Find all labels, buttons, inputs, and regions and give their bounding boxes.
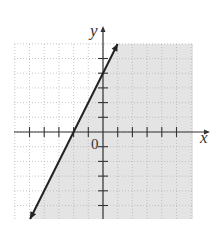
inequality-graph: x y 0 <box>0 0 216 228</box>
origin-label: 0 <box>91 136 99 152</box>
x-axis-label: x <box>199 128 208 147</box>
y-axis-label: y <box>88 21 98 40</box>
